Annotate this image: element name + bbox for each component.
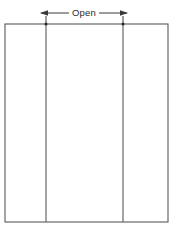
junction-dot-left [45,23,48,26]
left-panel [5,24,46,222]
technical-drawing: Open [0,0,180,231]
diagram-canvas: Open [0,0,180,231]
center-panel [46,24,123,222]
dimension-label-open: Open [72,7,96,18]
right-panel [123,24,168,222]
arrow-right-icon [120,10,128,16]
arrow-left-icon [40,10,48,16]
junction-dot-right [122,23,125,26]
